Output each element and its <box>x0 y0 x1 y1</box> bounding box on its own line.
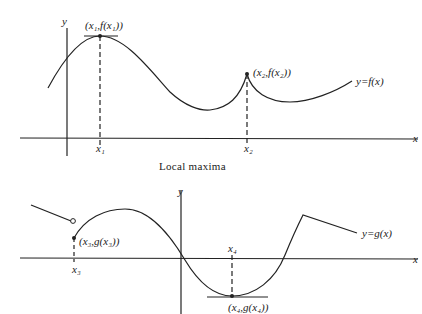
g-curve <box>74 209 357 296</box>
top-x-axis-label: x <box>413 133 418 144</box>
bottom-x-axis-label: x <box>413 254 418 265</box>
tick-x3-label: x₃ <box>72 264 81 275</box>
g-left-segment <box>31 205 71 221</box>
tick-x1-label: x₁ <box>96 143 105 154</box>
point4-label: (x₄,g(x₄)) <box>228 302 268 313</box>
f-curve <box>48 36 352 110</box>
open-point <box>71 219 76 224</box>
f-curve-label: y=f(x) <box>356 76 384 87</box>
top-y-axis-label: y <box>62 16 67 27</box>
caption-local-maxima: Local maxima <box>159 161 226 172</box>
point-x1 <box>98 34 102 38</box>
point3-label: (x₃,g(x₃)) <box>79 236 119 247</box>
diagram-canvas <box>0 0 422 314</box>
point2-label: (x₂,f(x₂)) <box>253 67 291 78</box>
point-x3 <box>72 236 76 240</box>
top-x-axis <box>20 138 418 139</box>
point-x2 <box>245 72 249 76</box>
bottom-x-axis <box>20 258 418 259</box>
point1-label: (x₁,f(x₁)) <box>85 20 123 31</box>
bottom-y-axis-label: y <box>178 186 183 197</box>
g-curve-label: y=g(x) <box>362 228 392 239</box>
tick-x2-label: x₂ <box>244 143 253 154</box>
point-x4 <box>230 294 234 298</box>
tick-x4-label: x₄ <box>228 243 237 254</box>
